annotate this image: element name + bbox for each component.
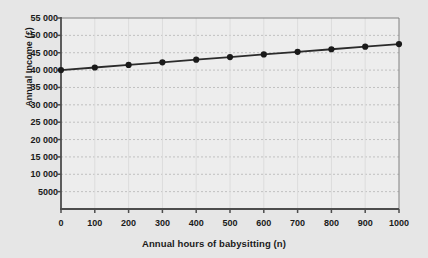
data-point-marker[interactable] [295,49,301,55]
data-point-marker[interactable] [396,41,402,47]
data-point-marker[interactable] [193,57,199,63]
data-point-marker[interactable] [126,62,132,68]
data-point-marker[interactable] [261,51,267,57]
data-point-marker[interactable] [227,54,233,60]
data-point-marker[interactable] [159,59,165,65]
x-axis-title: Annual hours of babysitting (n) [0,238,428,249]
x-tick-label: 1000 [376,218,422,228]
chart-figure: Annual Income (£) 500010 00015 00020 000… [0,0,428,258]
x-axis-tick-labels: 01002003004005006007008009001000 [0,218,428,234]
data-point-marker[interactable] [328,46,334,52]
data-point-marker[interactable] [362,44,368,50]
data-point-marker[interactable] [58,67,64,73]
data-point-marker[interactable] [92,64,98,70]
